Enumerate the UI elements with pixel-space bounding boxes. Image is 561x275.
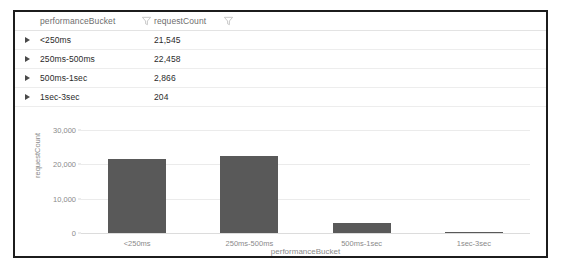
results-panel: performanceBucket requestCount <250ms 21… — [13, 10, 548, 258]
header-expander-spacer — [20, 12, 34, 30]
gridline — [81, 130, 530, 131]
y-tick-label: 10,000 — [53, 194, 76, 203]
y-axis-title: requestCount — [33, 133, 42, 178]
table-row[interactable]: <250ms 21,545 — [15, 31, 546, 50]
row-expand-chevron-icon[interactable] — [20, 69, 34, 87]
table-row[interactable]: 250ms-500ms 22,458 — [15, 50, 546, 69]
cell-requestcount: 2,866 — [154, 69, 244, 87]
bar[interactable] — [220, 156, 278, 233]
bar[interactable] — [108, 159, 166, 233]
y-tick-mark — [78, 164, 81, 165]
cell-performancebucket: <250ms — [40, 31, 150, 49]
column-header-performancebucket[interactable]: performanceBucket — [40, 12, 150, 30]
cell-requestcount: 204 — [154, 88, 244, 106]
y-tick-mark — [78, 233, 81, 234]
cell-requestcount: 22,458 — [154, 50, 244, 68]
bar[interactable] — [445, 232, 503, 233]
cell-requestcount: 21,545 — [154, 31, 244, 49]
row-expand-chevron-icon[interactable] — [20, 31, 34, 49]
filter-funnel-icon[interactable] — [223, 16, 234, 27]
results-table: performanceBucket requestCount <250ms 21… — [15, 12, 546, 116]
row-expand-chevron-icon[interactable] — [20, 50, 34, 68]
row-expand-chevron-icon[interactable] — [20, 88, 34, 106]
cell-performancebucket: 250ms-500ms — [40, 50, 150, 68]
gridline — [81, 233, 530, 234]
plot-area: 010,00020,00030,000<250ms250ms-500ms500m… — [81, 130, 530, 233]
y-tick-label: 30,000 — [53, 126, 76, 135]
cell-performancebucket: 1sec-3sec — [40, 88, 150, 106]
bar-chart: requestCount 010,00020,00030,000<250ms25… — [15, 116, 546, 256]
y-tick-label: 0 — [72, 229, 76, 238]
table-row[interactable]: 1sec-3sec 204 — [15, 88, 546, 107]
y-tick-mark — [78, 198, 81, 199]
table-header-row: performanceBucket requestCount — [15, 12, 546, 31]
y-tick-mark — [78, 130, 81, 131]
cell-performancebucket: 500ms-1sec — [40, 69, 150, 87]
filter-funnel-icon[interactable] — [141, 16, 152, 27]
table-row[interactable]: 500ms-1sec 2,866 — [15, 69, 546, 88]
x-axis-title: performanceBucket — [81, 247, 530, 256]
y-tick-label: 20,000 — [53, 160, 76, 169]
bar[interactable] — [333, 223, 391, 233]
